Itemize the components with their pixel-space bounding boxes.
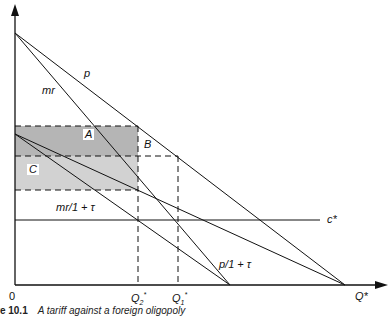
y-axis-arrow-icon [11, 4, 19, 16]
label-q2: Q2* [131, 291, 146, 306]
label-c-star: c* [327, 214, 337, 225]
label-c: C [27, 164, 39, 175]
label-mr-tau: mr/1 + τ [56, 202, 95, 213]
label-q1: Q1* [172, 291, 187, 306]
label-mr: mr [42, 85, 55, 96]
label-origin: 0 [9, 291, 15, 302]
label-x-axis: Q* [355, 291, 368, 302]
label-b: B [144, 139, 151, 150]
label-a: A [83, 129, 94, 140]
label-p-tau: p/1 + τ [219, 259, 251, 270]
area-a [15, 126, 138, 156]
figure-caption: re 10.1A tariff against a foreign oligop… [0, 305, 185, 316]
label-p: p [84, 68, 90, 79]
x-axis-arrow-icon [375, 281, 388, 289]
